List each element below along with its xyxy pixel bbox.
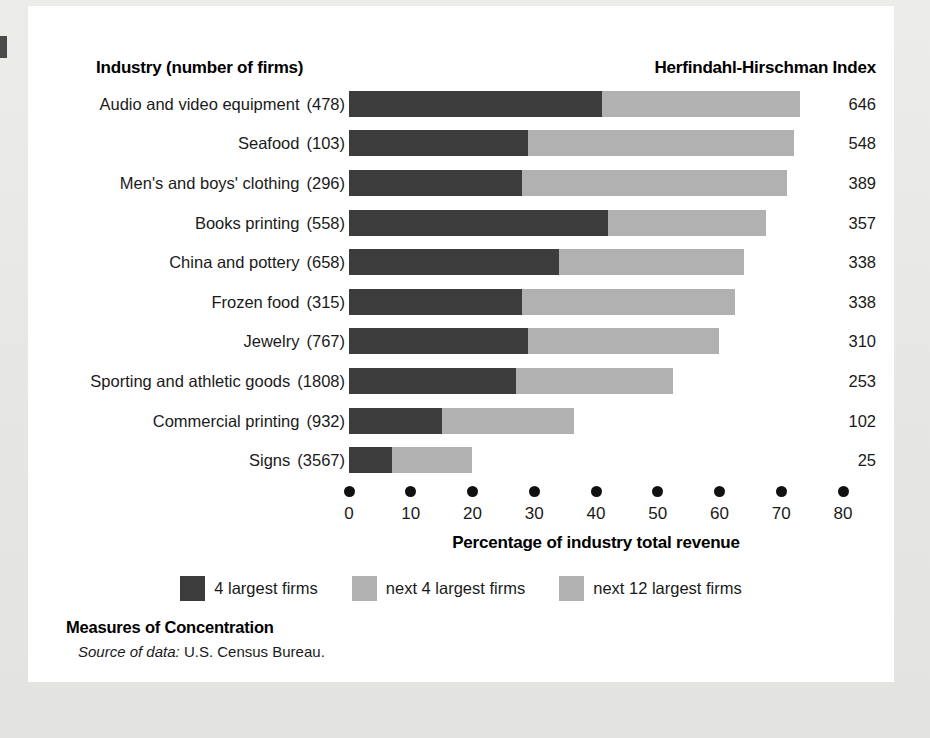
stacked-bar	[349, 328, 843, 354]
legend-item: 4 largest firms	[180, 576, 318, 601]
chart-row: Sporting and athletic goods(1808)253	[28, 361, 894, 401]
axis-tick-dot	[344, 486, 355, 497]
bar-segment-next-4	[528, 328, 621, 354]
column-header-industry: Industry (number of firms)	[96, 58, 303, 78]
chart-row: Men's and boys' clothing(296)389	[28, 163, 894, 203]
axis-tick-label: 50	[648, 504, 667, 524]
axis-tick-dot	[838, 486, 849, 497]
axis-tick-label: 70	[772, 504, 791, 524]
caption-source-label: Source of data:	[78, 643, 180, 660]
axis-tick-label: 40	[587, 504, 606, 524]
row-value-hhi: 253	[848, 371, 876, 390]
bar-segment-next-12	[689, 210, 766, 236]
bar-segment-next-12	[652, 249, 745, 275]
stacked-bar	[349, 249, 843, 275]
legend-swatch-light	[352, 576, 377, 601]
bar-segment-4-largest	[349, 130, 528, 156]
bar-segment-next-12	[652, 170, 788, 196]
axis-tick-dot	[529, 486, 540, 497]
x-axis-title: Percentage of industry total revenue	[349, 533, 843, 553]
row-value-hhi: 338	[848, 292, 876, 311]
stacked-bar	[349, 210, 843, 236]
chart-row: Signs(3567)25	[28, 440, 894, 480]
bar-segment-4-largest	[349, 408, 442, 434]
chart-row: Audio and video equipment(478)646	[28, 84, 894, 124]
bar-segment-next-12	[658, 130, 794, 156]
bar-segment-4-largest	[349, 289, 522, 315]
bar-segment-4-largest	[349, 249, 559, 275]
stacked-bar	[349, 368, 843, 394]
row-value-hhi: 102	[848, 411, 876, 430]
industry-name: Men's and boys' clothing	[120, 173, 300, 191]
bar-segment-next-4	[559, 249, 652, 275]
row-value-hhi: 338	[848, 253, 876, 272]
caption-source: Source of data: U.S. Census Bureau.	[78, 643, 766, 660]
legend-item: next 12 largest firms	[559, 576, 742, 601]
axis-tick-dot	[405, 486, 416, 497]
caption-title: Measures of Concentration	[66, 618, 766, 637]
firm-count: (296)	[306, 173, 345, 191]
row-value-hhi: 389	[848, 173, 876, 192]
bar-segment-next-4	[608, 210, 688, 236]
firm-count: (3567)	[297, 451, 345, 469]
stacked-bar	[349, 408, 843, 434]
bar-segment-next-4	[392, 447, 435, 473]
chart-legend: 4 largest firmsnext 4 largest firmsnext …	[28, 576, 894, 601]
axis-tick-label: 20	[463, 504, 482, 524]
industry-name: Audio and video equipment	[99, 94, 299, 112]
legend-item: next 4 largest firms	[352, 576, 525, 601]
legend-label: next 12 largest firms	[593, 579, 742, 598]
industry-name: Sporting and athletic goods	[90, 371, 290, 389]
bar-segment-4-largest	[349, 210, 608, 236]
bar-segment-next-4	[602, 91, 701, 117]
industry-name: Commercial printing	[153, 411, 300, 429]
bar-segment-next-4	[442, 408, 510, 434]
column-header-hhi: Herfindahl-Hirschman Index	[654, 58, 876, 78]
legend-swatch-light	[559, 576, 584, 601]
chart-row: China and pottery(658)338	[28, 242, 894, 282]
axis-tick-dot	[714, 486, 725, 497]
row-label-industry: Audio and video equipment(478)	[99, 94, 345, 113]
axis-tick-dot	[776, 486, 787, 497]
axis-tick-dot	[591, 486, 602, 497]
stacked-bar	[349, 91, 843, 117]
row-label-industry: Signs(3567)	[249, 451, 345, 470]
axis-tick-dot	[652, 486, 663, 497]
stacked-bar	[349, 289, 843, 315]
firm-count: (932)	[306, 411, 345, 429]
row-label-industry: Men's and boys' clothing(296)	[120, 173, 345, 192]
chart-row: Frozen food(315)338	[28, 282, 894, 322]
firm-count: (1808)	[297, 371, 345, 389]
firm-count: (767)	[306, 332, 345, 350]
row-value-hhi: 357	[848, 213, 876, 232]
legend-swatch-dark	[180, 576, 205, 601]
row-value-hhi: 310	[848, 332, 876, 351]
chart-row: Jewelry(767)310	[28, 322, 894, 362]
bar-segment-4-largest	[349, 91, 602, 117]
bar-segment-4-largest	[349, 368, 516, 394]
firm-count: (315)	[306, 292, 345, 310]
bar-segment-next-12	[510, 408, 575, 434]
axis-tick-label: 0	[344, 504, 353, 524]
figure-caption: Measures of Concentration Source of data…	[66, 618, 766, 660]
firm-count: (478)	[306, 94, 345, 112]
axis-tick-dot	[467, 486, 478, 497]
legend-label: next 4 largest firms	[386, 579, 525, 598]
legend-label: 4 largest firms	[214, 579, 318, 598]
figure-panel: Industry (number of firms) Herfindahl-Hi…	[28, 6, 894, 682]
firm-count: (558)	[306, 213, 345, 231]
row-label-industry: Frozen food(315)	[211, 292, 345, 311]
chart-row: Seafood(103)548	[28, 124, 894, 164]
axis-tick-label: 10	[401, 504, 420, 524]
row-label-industry: Seafood(103)	[238, 134, 345, 153]
bar-chart-plot: Audio and video equipment(478)646Seafood…	[28, 84, 894, 480]
bar-segment-next-4	[516, 368, 596, 394]
row-value-hhi: 548	[848, 134, 876, 153]
bar-segment-next-12	[621, 328, 720, 354]
stacked-bar	[349, 170, 843, 196]
firm-count: (658)	[306, 253, 345, 271]
industry-name: Seafood	[238, 134, 299, 152]
bar-segment-4-largest	[349, 170, 522, 196]
firm-count: (103)	[306, 134, 345, 152]
row-value-hhi: 646	[848, 94, 876, 113]
